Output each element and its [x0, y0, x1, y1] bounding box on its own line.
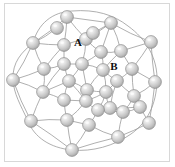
graph-node[interactable]	[105, 17, 118, 30]
graph-node[interactable]	[87, 27, 100, 40]
node-specular-highlight	[9, 76, 13, 79]
node-sphere	[25, 115, 38, 128]
node-specular-highlight	[60, 41, 64, 44]
node-sphere	[115, 45, 128, 58]
graph-node[interactable]	[117, 106, 130, 119]
node-specular-highlight	[97, 48, 101, 51]
node-specular-highlight	[128, 65, 132, 68]
graph-node[interactable]	[27, 37, 40, 50]
node-annotation-a: A	[74, 36, 82, 48]
node-sphere	[58, 58, 71, 71]
graph-node[interactable]	[58, 94, 71, 107]
node-sphere	[27, 37, 40, 50]
node-specular-highlight	[68, 146, 72, 149]
node-sphere	[37, 86, 50, 99]
node-sphere	[80, 95, 93, 108]
graph-node[interactable]	[126, 63, 139, 76]
node-specular-highlight	[78, 60, 82, 63]
graph-node[interactable]	[100, 86, 113, 99]
node-specular-highlight	[151, 78, 155, 81]
graph-node[interactable]	[143, 117, 156, 130]
node-specular-highlight	[113, 77, 117, 80]
node-sphere	[97, 64, 110, 77]
node-specular-highlight	[40, 65, 44, 68]
node-specular-highlight	[63, 116, 67, 119]
node-specular-highlight	[83, 86, 87, 89]
node-sphere	[7, 74, 20, 87]
graph-node[interactable]	[112, 131, 125, 144]
node-specular-highlight	[106, 104, 110, 107]
graph-node[interactable]	[66, 144, 79, 157]
graph-node[interactable]	[38, 63, 51, 76]
graph-node[interactable]	[95, 46, 108, 59]
node-specular-highlight	[60, 60, 64, 63]
node-specular-highlight	[85, 121, 89, 124]
graph-node[interactable]	[104, 102, 117, 115]
graph-node[interactable]	[134, 101, 147, 114]
node-sphere	[112, 131, 125, 144]
node-specular-highlight	[82, 35, 86, 38]
graph-nodes-layer	[7, 11, 162, 157]
node-sphere	[58, 39, 71, 52]
node-sphere	[92, 104, 105, 117]
node-sphere	[83, 119, 96, 132]
node-specular-highlight	[53, 24, 57, 27]
node-sphere	[51, 22, 64, 35]
node-specular-highlight	[136, 103, 140, 106]
graph-node[interactable]	[76, 58, 89, 71]
node-sphere	[58, 94, 71, 107]
node-sphere	[104, 102, 117, 115]
graph-node[interactable]	[61, 114, 74, 127]
node-specular-highlight	[60, 96, 64, 99]
node-sphere	[105, 17, 118, 30]
node-specular-highlight	[27, 117, 31, 120]
node-specular-highlight	[39, 88, 43, 91]
node-specular-highlight	[147, 38, 151, 41]
graph-node[interactable]	[115, 45, 128, 58]
graph-node[interactable]	[37, 86, 50, 99]
node-specular-highlight	[29, 39, 33, 42]
graph-node[interactable]	[149, 76, 162, 89]
graph-node[interactable]	[97, 64, 110, 77]
graph-edge	[72, 137, 118, 150]
node-sphere	[143, 117, 156, 130]
node-specular-highlight	[145, 119, 149, 122]
node-sphere	[117, 106, 130, 119]
node-specular-highlight	[82, 97, 86, 100]
graph-node[interactable]	[58, 39, 71, 52]
node-specular-highlight	[102, 88, 106, 91]
graph-node[interactable]	[145, 36, 158, 49]
node-sphere	[63, 75, 76, 88]
graph-node[interactable]	[111, 75, 124, 88]
graph-node[interactable]	[83, 119, 96, 132]
graph-node[interactable]	[58, 58, 71, 71]
graph-node[interactable]	[25, 115, 38, 128]
node-sphere	[145, 36, 158, 49]
network-graph-canvas: AB	[0, 0, 175, 167]
node-specular-highlight	[99, 66, 103, 69]
node-specular-highlight	[107, 19, 111, 22]
node-sphere	[61, 114, 74, 127]
node-specular-highlight	[94, 106, 98, 109]
node-sphere	[87, 27, 100, 40]
node-specular-highlight	[130, 92, 134, 95]
node-sphere	[126, 63, 139, 76]
node-specular-highlight	[63, 13, 67, 16]
graph-node[interactable]	[80, 95, 93, 108]
node-specular-highlight	[114, 133, 118, 136]
node-specular-highlight	[89, 29, 93, 32]
node-specular-highlight	[65, 77, 69, 80]
graph-node[interactable]	[51, 22, 64, 35]
node-sphere	[61, 11, 74, 24]
graph-node[interactable]	[7, 74, 20, 87]
node-sphere	[76, 58, 89, 71]
node-sphere	[134, 101, 147, 114]
graph-node[interactable]	[92, 104, 105, 117]
node-sphere	[38, 63, 51, 76]
node-sphere	[95, 46, 108, 59]
figure-root: AB	[0, 0, 175, 167]
graph-node[interactable]	[63, 75, 76, 88]
node-specular-highlight	[117, 47, 121, 50]
graph-node[interactable]	[61, 11, 74, 24]
node-sphere	[100, 86, 113, 99]
